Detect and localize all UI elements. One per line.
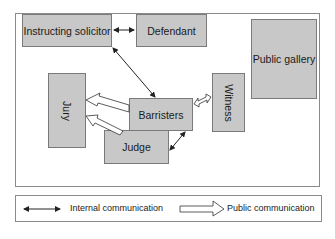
edge-judge-jury (86, 115, 123, 135)
edge-solicitor-barristers (113, 48, 155, 97)
legend-internal-label: Internal communication (70, 203, 163, 213)
edge-barristers-witness (194, 94, 211, 107)
edge-barristers-jury (86, 93, 129, 112)
edge-barristers-judge (170, 132, 185, 150)
legend-public-label: Public communication (227, 203, 315, 213)
